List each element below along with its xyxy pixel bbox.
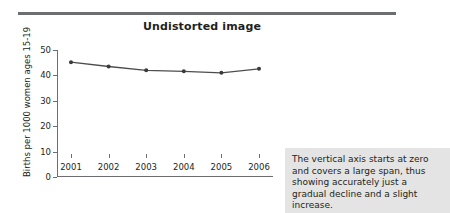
- top-horizontal-rule: [18, 12, 396, 15]
- y-tick-label: 20: [40, 121, 51, 131]
- data-point: [219, 71, 223, 75]
- data-point: [107, 65, 111, 69]
- y-tick-label: 30: [40, 96, 51, 106]
- y-axis-title: Births per 1000 women ages 15-19: [22, 50, 36, 177]
- data-point: [69, 60, 73, 64]
- y-tick-label: 50: [40, 45, 51, 55]
- figure-root: Undistorted image Births per 1000 women …: [0, 0, 450, 213]
- data-point: [257, 67, 261, 71]
- caption-text: The vertical axis starts at zero and cov…: [292, 154, 442, 212]
- data-point: [182, 69, 186, 73]
- series-markers: [69, 60, 261, 75]
- y-tick-label: 0: [46, 172, 51, 182]
- caption-box: The vertical axis starts at zero and cov…: [285, 148, 450, 213]
- plot-area: 01020304050 200120022003200420052006: [57, 50, 273, 177]
- page-title: Undistorted image: [0, 20, 404, 33]
- series-line-path: [71, 62, 259, 73]
- series-line-chart: [57, 50, 273, 177]
- y-tick-label: 40: [40, 70, 51, 80]
- y-tick-label: 10: [40, 147, 51, 157]
- data-point: [144, 68, 148, 72]
- y-axis-title-label: Births per 1000 women ages 15-19: [22, 37, 33, 177]
